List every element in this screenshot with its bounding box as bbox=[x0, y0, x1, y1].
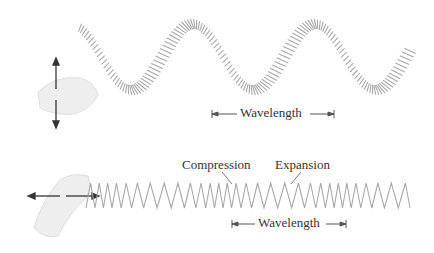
wavelength-label-bottom: Wavelength bbox=[258, 215, 320, 231]
wave-diagram bbox=[0, 0, 434, 253]
expansion-label: Expansion bbox=[275, 157, 330, 173]
label-pointers bbox=[222, 172, 301, 184]
hand-top bbox=[38, 78, 98, 115]
compression-label: Compression bbox=[182, 157, 251, 173]
wavelength-label-top: Wavelength bbox=[240, 105, 302, 121]
hand-bottom bbox=[34, 175, 90, 237]
longitudinal-spring bbox=[86, 183, 410, 208]
transverse-spring bbox=[78, 19, 415, 95]
